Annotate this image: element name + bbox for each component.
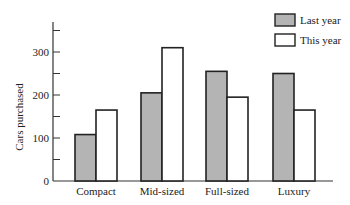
bar-this-year-compact xyxy=(96,110,117,181)
y-axis-label: Cars purchased xyxy=(13,83,25,151)
legend: Last yearThis year xyxy=(275,14,342,46)
x-tick-label: Full-sized xyxy=(205,185,249,197)
legend-swatch xyxy=(275,34,295,46)
y-tick-label: 200 xyxy=(33,89,50,101)
bar-last-year-luxury xyxy=(273,74,294,182)
bars: CompactMid-sizedFull-sizedLuxury xyxy=(75,48,315,197)
legend-swatch xyxy=(275,14,295,26)
legend-label: Last year xyxy=(300,14,341,26)
x-tick-label: Compact xyxy=(76,185,116,197)
y-tick-label: 0 xyxy=(44,175,50,187)
bar-this-year-full-sized xyxy=(227,97,248,181)
x-tick-label: Luxury xyxy=(278,185,311,197)
bar-this-year-luxury xyxy=(294,110,315,181)
x-tick-label: Mid-sized xyxy=(140,185,185,197)
bar-chart: 0100200300 CompactMid-sizedFull-sizedLux… xyxy=(0,0,350,205)
bar-last-year-compact xyxy=(75,135,96,181)
bar-this-year-mid-sized xyxy=(162,48,183,181)
y-tick-label: 300 xyxy=(33,46,50,58)
bar-last-year-full-sized xyxy=(206,71,227,181)
legend-label: This year xyxy=(300,34,342,46)
y-tick-label: 100 xyxy=(33,132,50,144)
bar-last-year-mid-sized xyxy=(141,93,162,181)
